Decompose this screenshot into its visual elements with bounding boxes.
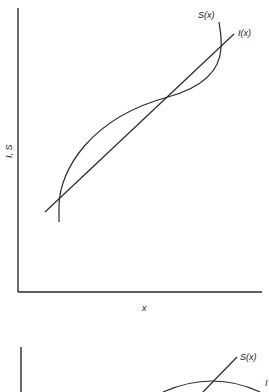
x-axis-label: x xyxy=(141,303,147,313)
figure2: S(x) I xyxy=(21,347,268,392)
cut-off-label-2: I xyxy=(265,378,268,388)
i-of-x-line xyxy=(45,34,234,212)
s-of-x-label: S(x) xyxy=(198,10,215,20)
figure-canvas: S(x) I(x) I, S x S(x) I xyxy=(0,0,269,392)
y-axis-label: I, S xyxy=(4,144,14,158)
figure1: S(x) I(x) I, S x xyxy=(4,8,262,313)
s-of-x-line-2 xyxy=(203,357,237,392)
s-of-x-label-2: S(x) xyxy=(240,352,257,362)
i-of-x-label: I(x) xyxy=(238,28,251,38)
